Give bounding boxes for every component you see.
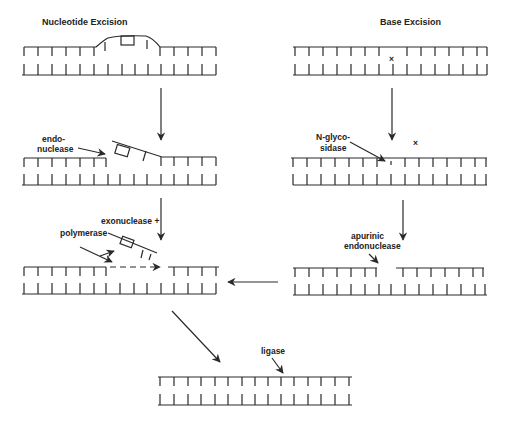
label-apurinic: apurinic (351, 231, 384, 241)
label-polymerase: polymerase (60, 228, 108, 238)
dna-abasic (291, 158, 487, 185)
dna-repair-diagram: Nucleotide Excision Base Excision × endo… (0, 0, 505, 426)
label-exonuclease: exonuclease + (101, 216, 159, 226)
dna-repaired (158, 377, 352, 405)
title-base-excision: Base Excision (380, 17, 441, 27)
damage-mark-icon: × (389, 54, 394, 64)
dna-ap-incised (293, 268, 487, 295)
label-ap-endonuclease: endonuclease (344, 241, 401, 251)
label-ligase: ligase (261, 346, 285, 356)
endonuclease-pointer-arrow (78, 148, 105, 154)
dna-damaged-bulge (22, 36, 216, 75)
ligase-pointer-arrow (272, 358, 283, 373)
label-glycosidase-2: sidase (320, 143, 347, 153)
released-base-mark-icon: × (413, 138, 418, 148)
arrow-to-ligation (172, 311, 220, 362)
label-endonuclease-1: endo- (42, 134, 65, 144)
dna-gap-filling (22, 233, 219, 294)
label-endonuclease-2: nuclease (37, 144, 74, 154)
ap-endonuclease-pointer-arrow (369, 254, 378, 263)
label-glycosidase-1: N-glyco- (316, 132, 350, 142)
title-nucleotide-excision: Nucleotide Excision (42, 17, 128, 27)
